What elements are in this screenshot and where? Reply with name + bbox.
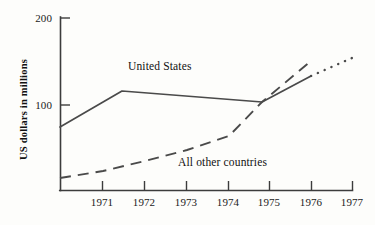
x-tick-label-1977: 1977 [341, 196, 363, 208]
series-label-united-states: United States [128, 60, 192, 72]
series-united-states-projection [311, 58, 352, 76]
chart-canvas [0, 0, 375, 225]
x-tick-marks [103, 181, 353, 190]
x-tick-label-1974: 1974 [217, 196, 239, 208]
series-label-all-other-countries: All other countries [178, 156, 267, 168]
y-tick-label-200: 200 [18, 12, 52, 24]
x-tick-label-1972: 1972 [133, 196, 155, 208]
x-tick-label-1971: 1971 [91, 196, 113, 208]
series-united-states-line [60, 76, 311, 127]
x-tick-label-1973: 1973 [175, 196, 197, 208]
y-axis-title: US dollars in millions [18, 40, 29, 180]
x-tick-label-1976: 1976 [300, 196, 322, 208]
x-tick-label-1975: 1975 [258, 196, 280, 208]
line-chart: 200 100 1971 1972 1973 1974 1975 1976 19… [0, 0, 375, 225]
